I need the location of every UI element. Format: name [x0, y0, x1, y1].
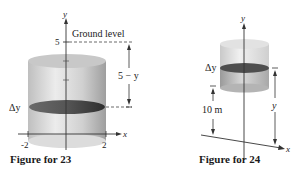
- figure-24: y x Δy 10 m y Figure for 24: [151, 0, 302, 176]
- slice-thickness-label: Δy: [9, 102, 20, 113]
- x-axis-arrow-icon: [116, 132, 122, 136]
- figure-23-caption: Figure for 23: [10, 153, 71, 165]
- distance-label: 5 − y: [118, 70, 139, 81]
- slice-thickness-label: Δy: [205, 62, 216, 73]
- distance-label: y: [271, 100, 277, 111]
- slice-disk: [220, 63, 269, 73]
- height-label: 10 m: [202, 104, 223, 115]
- x-axis-label: x: [285, 144, 290, 154]
- y-axis-label: y: [62, 9, 67, 19]
- x-tick-2: 2: [102, 140, 107, 150]
- y-axis-label: y: [240, 13, 245, 23]
- ground-level-label: Ground level: [72, 28, 125, 39]
- figure-23: y x 5 -2 2 Ground level 5 − y Δy Figure …: [0, 0, 151, 176]
- x-axis-label: x: [122, 129, 127, 139]
- x-tick-neg2: -2: [21, 140, 29, 150]
- x-axis: [201, 135, 281, 148]
- y-tick-5: 5: [55, 37, 60, 47]
- figure-24-diagram: y x Δy 10 m y: [151, 0, 302, 176]
- figure-24-caption: Figure for 24: [199, 153, 260, 165]
- slice-disk: [29, 100, 105, 114]
- figure-23-diagram: y x 5 -2 2 Ground level 5 − y Δy: [0, 0, 151, 176]
- x-axis-arrow-icon: [278, 145, 285, 150]
- y-axis-arrow-icon: [242, 23, 246, 29]
